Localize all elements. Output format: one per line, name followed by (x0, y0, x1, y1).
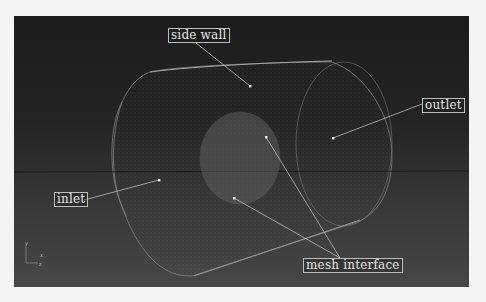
interface-disc (200, 112, 280, 204)
label-mesh-interface: mesh interface (303, 258, 403, 273)
axis-triad-icon (26, 246, 38, 263)
label-inlet: inlet (54, 192, 88, 207)
label-side-wall: side wall (168, 28, 230, 43)
figure-panel: side wall outlet inlet mesh interface y … (14, 16, 469, 287)
axis-x-label: x (40, 252, 43, 258)
axis-z-label: z (39, 261, 42, 267)
label-outlet: outlet (422, 98, 465, 113)
mesh-illustration (14, 16, 469, 287)
axis-y-label: y (25, 240, 28, 246)
